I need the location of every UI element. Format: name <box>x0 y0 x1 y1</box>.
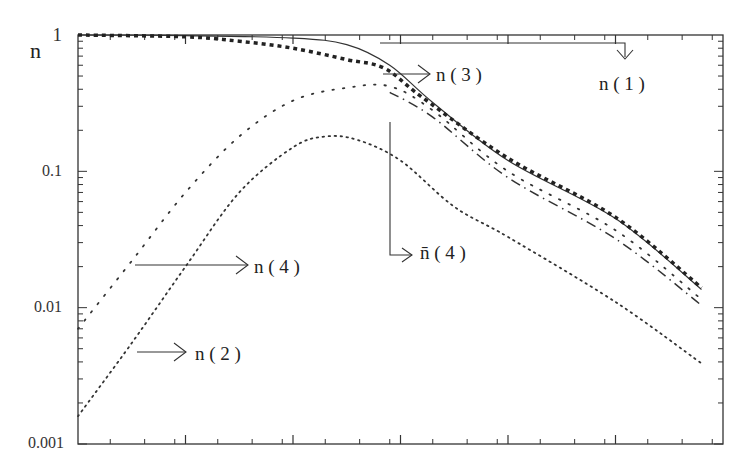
plot-frame <box>78 35 723 444</box>
annotation-n3: n ( 3 ) <box>436 64 482 86</box>
arrow-n1 <box>380 43 625 57</box>
y-tick-label-0.1: 0.1 <box>0 162 62 180</box>
arrow-n4bar <box>390 122 412 255</box>
annotation-n4: n ( 4 ) <box>254 256 300 278</box>
chart-plot <box>0 0 753 472</box>
y-tick-label-0.01: 0.01 <box>0 298 62 316</box>
y-tick-label-1: 1 <box>0 24 62 46</box>
y-tick-label-0.001: 0.001 <box>2 434 64 452</box>
curve-n4 <box>390 92 702 305</box>
annotation-n2: n ( 2 ) <box>195 343 241 365</box>
annotation-n4bar: n̄ ( 4 ) <box>420 242 466 264</box>
annotation-n1: n ( 1 ) <box>599 73 645 95</box>
axes-frame <box>78 35 723 444</box>
annotation-arrows <box>135 43 633 361</box>
